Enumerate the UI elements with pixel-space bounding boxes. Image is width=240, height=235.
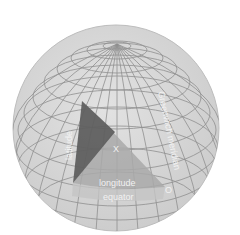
longitude-label: longitude [99,178,136,188]
latitude-label: latitude [64,131,74,160]
globe-diagram: latitude X longitude equator Greenwich m… [0,0,240,235]
point-x-label: X [113,144,119,154]
equator-label: equator [103,192,134,202]
origin-label: O [165,185,172,195]
